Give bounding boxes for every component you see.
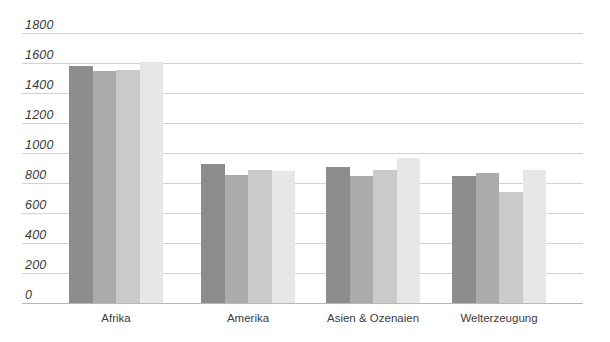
bar [225, 175, 249, 303]
bar [69, 66, 93, 303]
bar [140, 62, 164, 304]
bar [350, 176, 374, 303]
bar [248, 170, 272, 304]
gridline-0 [22, 303, 583, 304]
bar [452, 176, 476, 304]
bar [93, 71, 117, 303]
bar [499, 192, 523, 303]
bar [523, 170, 547, 303]
bars-layer [22, 33, 583, 303]
y-tick-label: 1800 [25, 19, 54, 32]
bar [272, 171, 296, 303]
bar-group [452, 33, 546, 303]
bar-group [201, 33, 295, 303]
bar [373, 170, 397, 303]
bar [201, 164, 225, 304]
bar-group [69, 33, 163, 303]
bar-chart: 020040060080010001200140016001800 Afrika… [0, 0, 610, 342]
bar-group [326, 33, 420, 303]
bar [397, 158, 421, 304]
x-axis-label: Welterzeugung [412, 313, 586, 325]
bar [116, 70, 140, 303]
bar [326, 167, 350, 303]
bar [476, 173, 500, 304]
